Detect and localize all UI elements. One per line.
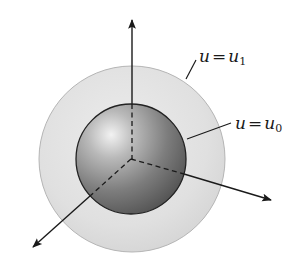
inner-label-var: u	[235, 113, 246, 133]
outer-label-rhs: u	[228, 46, 239, 66]
outer-label-sub: 1	[239, 55, 246, 68]
inner-label-sub: 0	[275, 122, 282, 135]
inner-label-rhs: u	[264, 113, 275, 133]
inner-label-equals: =	[248, 113, 262, 133]
inner-sphere-label: u=u0	[235, 115, 282, 134]
outer-sphere-label: u=u1	[199, 48, 246, 67]
spheres-diagram	[0, 0, 303, 269]
outer-label-var: u	[199, 46, 210, 66]
outer-label-equals: =	[212, 46, 226, 66]
outer-label-leader	[186, 60, 196, 79]
